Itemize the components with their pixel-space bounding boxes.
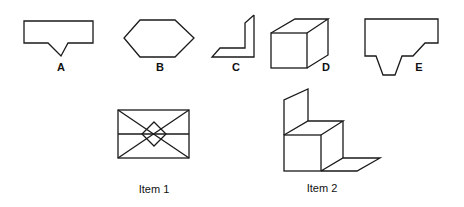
option-d: D	[271, 19, 330, 73]
option-d-label: D	[322, 61, 330, 73]
shape-d-cube-front	[271, 33, 307, 68]
option-c: C	[212, 15, 254, 73]
shape-c-angle	[212, 15, 254, 57]
option-a-label: A	[57, 61, 65, 73]
item-2: Item 2	[284, 89, 380, 194]
option-b: B	[124, 20, 194, 73]
option-e: E	[365, 19, 438, 75]
item-2-label: Item 2	[307, 182, 338, 194]
item-2-cube-top	[284, 121, 343, 135]
option-e-label: E	[415, 61, 422, 73]
shape-e-profile	[365, 19, 438, 75]
shape-a-notched-rectangle	[24, 21, 93, 56]
shape-d-cube-top-side	[271, 19, 328, 33]
option-c-label: C	[232, 61, 240, 73]
item-2-cube-front	[284, 135, 321, 171]
option-b-label: B	[156, 61, 164, 73]
shape-b-hexagon	[124, 20, 194, 57]
figure-canvas: A B C D E Item 1	[0, 0, 464, 207]
item-1: Item 1	[118, 110, 189, 195]
item-1-label: Item 1	[139, 183, 170, 195]
item-2-floor	[321, 158, 380, 171]
option-a: A	[24, 21, 93, 73]
